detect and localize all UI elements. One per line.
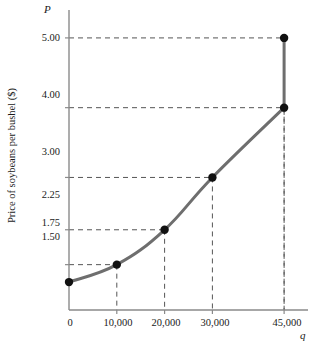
data-point-marker [113,260,121,268]
axis-lines-group [69,10,308,310]
supply-curve [69,38,284,282]
data-point-marker [280,103,288,111]
data-point-markers [65,34,288,287]
data-point-marker [65,278,73,286]
data-point-marker [160,226,168,234]
plot-area [0,0,314,359]
chart-figure: Price of soybeans per bushel ($) P q 5.0… [0,0,314,359]
data-point-marker [280,34,288,42]
guide-lines-group [69,38,284,310]
data-point-marker [208,173,216,181]
